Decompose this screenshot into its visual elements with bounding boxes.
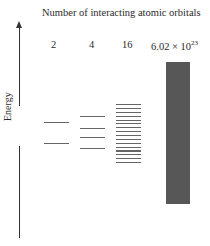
energy-level xyxy=(116,123,141,124)
energy-level xyxy=(116,127,141,128)
energy-level xyxy=(116,158,141,159)
count-label-16: 16 xyxy=(122,39,133,50)
count-label-avogadro: 6.02 × 1023 xyxy=(151,39,198,52)
count-exponent: 23 xyxy=(191,39,198,47)
energy-level xyxy=(116,154,141,155)
diagram-title: Number of interacting atomic orbitals xyxy=(42,7,201,18)
energy-level xyxy=(116,120,141,121)
energy-level xyxy=(116,162,141,163)
energy-level xyxy=(116,135,141,136)
energy-level xyxy=(116,104,141,105)
energy-band xyxy=(166,62,190,204)
energy-level xyxy=(80,128,105,129)
energy-level xyxy=(116,150,141,151)
energy-level xyxy=(116,112,141,113)
energy-axis-label: Energy xyxy=(2,92,13,121)
energy-level xyxy=(44,143,69,144)
energy-level xyxy=(116,108,141,109)
energy-level xyxy=(116,116,141,117)
count-label-2: 2 xyxy=(51,39,56,50)
energy-level xyxy=(116,147,141,148)
energy-level xyxy=(80,137,105,138)
energy-level xyxy=(80,148,105,149)
count-label-4: 4 xyxy=(89,39,94,50)
energy-axis-lower xyxy=(19,146,20,238)
energy-axis-upper xyxy=(19,26,20,106)
energy-level xyxy=(116,139,141,140)
energy-level xyxy=(116,143,141,144)
energy-level xyxy=(116,131,141,132)
energy-level xyxy=(80,116,105,117)
count-base: 6.02 × 10 xyxy=(151,41,191,52)
energy-level xyxy=(44,122,69,123)
